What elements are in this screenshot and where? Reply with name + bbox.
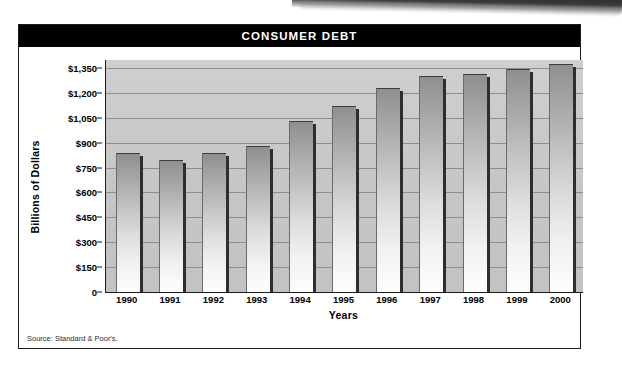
y-axis-tick-label: $750 [76,162,97,173]
y-axis-tick-mark [97,167,102,168]
bar-series [106,60,583,292]
x-axis-tick-label: 1999 [495,294,538,305]
bar-1992[interactable] [202,153,226,292]
y-axis-tick-label: $300 [76,237,97,248]
bar-slot [540,60,583,292]
y-axis-tick-mark [97,192,102,193]
y-axis-tick-mark [97,292,102,293]
y-axis-title-label: Billions of Dollars [29,140,41,233]
x-axis-tick-label: 1992 [192,294,235,305]
x-axis-title: Years [105,309,582,321]
bar-slot [279,60,322,292]
bar-slot [496,60,539,292]
x-axis-tick-label: 1996 [365,294,408,305]
bar-slot [453,60,496,292]
chart-card: CONSUMER DEBT Billions of Dollars 0$150$… [18,24,581,349]
y-axis-tick-label: $150 [76,262,97,273]
bar-1990[interactable] [116,153,140,292]
bar-slot [193,60,236,292]
bar-2000[interactable] [549,64,573,292]
y-axis-tick-mark [97,142,102,143]
y-axis-tick-labels: 0$150$300$450$600$750$900$1,050$1,200$1,… [45,47,101,348]
bar-1998[interactable] [463,74,487,292]
x-axis-tick-labels: 1990199119921993199419951996199719981999… [105,294,582,305]
y-axis-tick-label: $900 [76,137,97,148]
x-axis-tick-label: 1995 [322,294,365,305]
bar-slot [236,60,279,292]
y-axis-tick-label: $1,350 [68,62,97,73]
chart-title-bar: CONSUMER DEBT [19,25,580,47]
y-axis-tick-mark [97,117,102,118]
y-axis-tick-label: $450 [76,212,97,223]
bar-1991[interactable] [159,160,183,292]
x-axis-tick-label: 1998 [452,294,495,305]
bar-slot [410,60,453,292]
bar-1994[interactable] [289,121,313,292]
bar-slot [366,60,409,292]
chart-title: CONSUMER DEBT [242,30,358,42]
bar-1993[interactable] [246,146,270,292]
x-axis-tick-label: 2000 [539,294,582,305]
bar-slot [106,60,149,292]
y-axis-tick-label: $600 [76,187,97,198]
x-axis-tick-label: 1993 [235,294,278,305]
x-axis-tick-label: 1991 [148,294,191,305]
y-axis-tick-label: $1,200 [68,87,97,98]
bar-1999[interactable] [506,69,530,292]
y-axis-title: Billions of Dollars [27,77,43,297]
chart-body: Billions of Dollars 0$150$300$450$600$75… [19,47,580,348]
y-axis-tick-mark [97,217,102,218]
bar-1995[interactable] [332,106,356,292]
plot-inner [105,60,583,293]
y-axis-tick-label: $1,050 [68,112,97,123]
x-axis-tick-label: 1990 [105,294,148,305]
plot-area: 1990199119921993199419951996199719981999… [105,47,582,326]
y-axis-tick-mark [97,267,102,268]
y-axis-tick-mark [97,92,102,93]
bar-slot [149,60,192,292]
source-note: Source: Standard & Poor's. [27,334,118,343]
y-axis-tick-mark [97,67,102,68]
x-axis-tick-label: 1994 [278,294,321,305]
bar-1996[interactable] [376,88,400,292]
y-axis-tick-mark [97,242,102,243]
bar-slot [323,60,366,292]
x-axis-tick-label: 1997 [409,294,452,305]
bar-1997[interactable] [419,76,443,292]
